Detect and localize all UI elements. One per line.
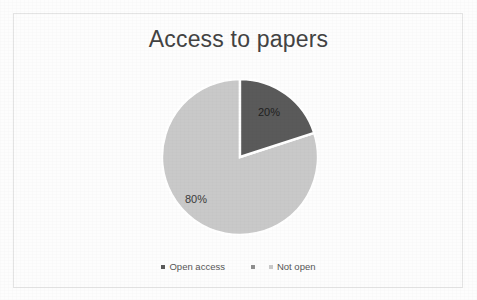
legend-item-open-access[interactable]: Open access [161,261,224,272]
pie-slice-label-open-access: 20% [258,106,280,118]
legend-swatch-icon-secondary [251,265,255,269]
chart-title: Access to papers [0,26,477,53]
legend-label-open-access: Open access [169,261,224,272]
chart-canvas: Access to papers 20% 80% Open access Not… [0,0,477,300]
pie-chart-plot-area [162,79,318,235]
pie-slice-label-not-open: 80% [185,193,207,205]
legend-item-not-open[interactable]: Not open [251,261,316,272]
legend-label-not-open: Not open [277,261,316,272]
legend-swatch-icon-not-open [269,265,273,269]
legend-swatch-icon-open-access [161,265,165,269]
pie-chart-svg [162,79,318,235]
chart-legend: Open access Not open [0,261,477,272]
